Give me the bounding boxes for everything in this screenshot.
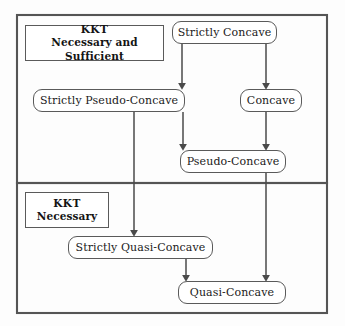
node-label: Strictly Pseudo-Concave xyxy=(40,94,178,107)
node-label: Strictly Concave xyxy=(178,26,272,39)
panel-label-line1: KKT xyxy=(81,23,108,36)
node-quasi-concave[interactable]: Quasi-Concave xyxy=(178,281,286,304)
node-strictly-quasi-concave[interactable]: Strictly Quasi-Concave xyxy=(68,236,213,259)
node-strictly-concave[interactable]: Strictly Concave xyxy=(172,21,277,44)
node-label: Strictly Quasi-Concave xyxy=(76,241,206,254)
node-pseudo-concave[interactable]: Pseudo-Concave xyxy=(180,150,286,173)
panel-label-line2: Necessary and Sufficient xyxy=(26,36,163,63)
node-concave[interactable]: Concave xyxy=(240,89,302,112)
panel-label-kkt-necessary-and-sufficient: KKT Necessary and Sufficient xyxy=(25,25,164,61)
panel-label-line2: Necessary xyxy=(37,210,98,223)
node-label: Pseudo-Concave xyxy=(187,155,280,168)
panel-label-kkt-necessary: KKT Necessary xyxy=(25,192,109,228)
node-label: Concave xyxy=(247,94,295,107)
node-label: Quasi-Concave xyxy=(190,286,274,299)
diagram-canvas: KKT Necessary and Sufficient KKT Necessa… xyxy=(0,0,345,326)
node-strictly-pseudo-concave[interactable]: Strictly Pseudo-Concave xyxy=(33,89,185,112)
panel-label-line1: KKT xyxy=(53,197,80,210)
